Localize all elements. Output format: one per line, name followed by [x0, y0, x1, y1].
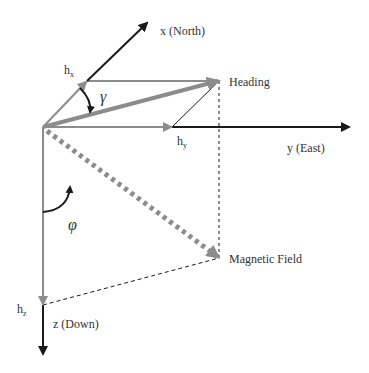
magnetic-heading-diagram: x (North) y (East) z (Down) Heading Magn…	[0, 0, 369, 373]
phi-angle-label: φ	[68, 216, 77, 234]
gamma-angle-arc	[80, 88, 90, 112]
hz-to-field-projection-line	[43, 258, 219, 305]
phi-angle-arc	[43, 187, 70, 212]
y-axis-label: y (East)	[287, 141, 325, 155]
magnetic-field-label: Magnetic Field	[229, 252, 302, 266]
hy-label: hy	[177, 134, 187, 150]
heading-vector-arrow	[43, 81, 218, 127]
z-axis-label: z (Down)	[53, 317, 99, 331]
gamma-angle-label: γ	[100, 88, 107, 106]
x-axis-label: x (North)	[160, 24, 205, 38]
heading-label: Heading	[229, 75, 270, 89]
x-axis-black-segment	[87, 23, 147, 81]
hx-label: hx	[64, 63, 74, 79]
hz-label: hz	[17, 302, 27, 318]
magnetic-field-vector-arrow	[47, 131, 218, 257]
